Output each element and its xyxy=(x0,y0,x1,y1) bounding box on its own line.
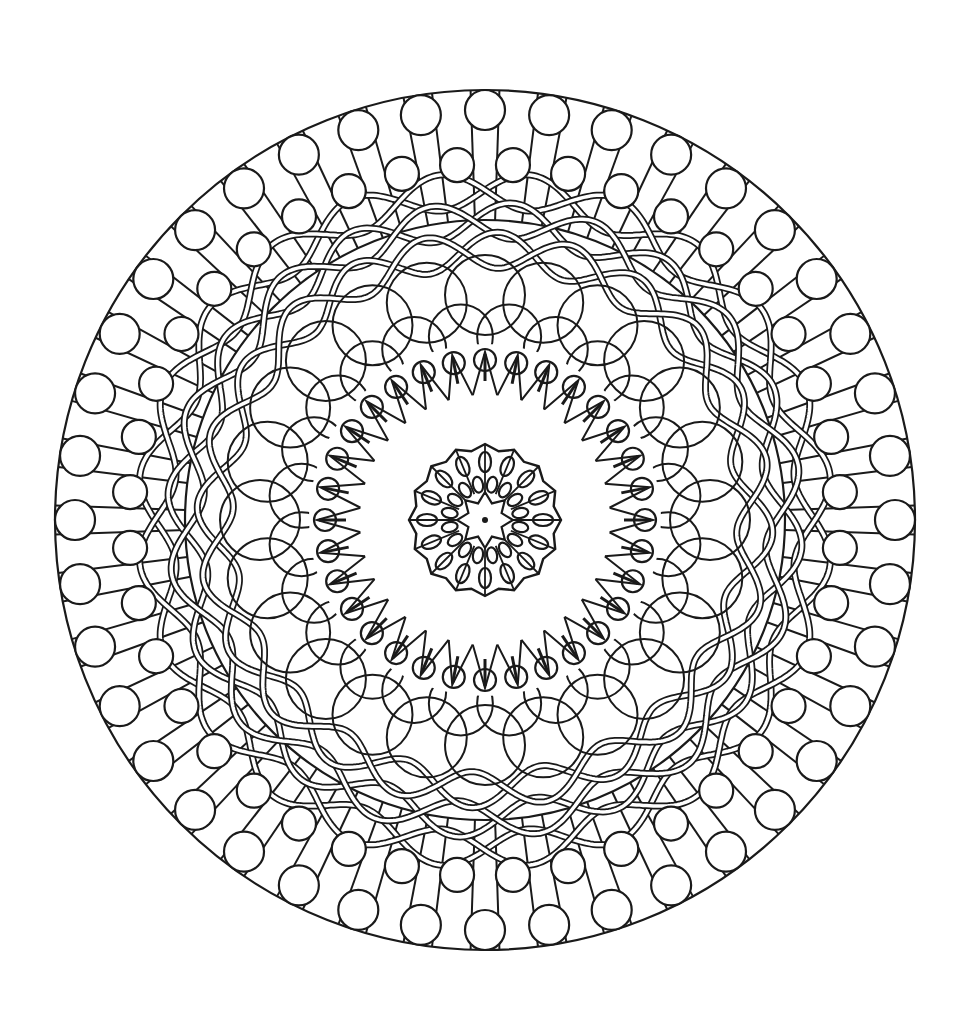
inner-rosette xyxy=(409,444,561,596)
mandala-artwork xyxy=(0,0,979,1016)
mandala-canvas xyxy=(0,0,979,1016)
